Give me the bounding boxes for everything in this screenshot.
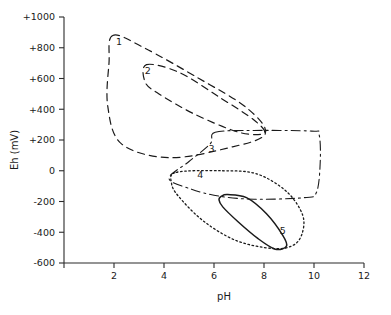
x-tick-label: 2 bbox=[111, 270, 117, 281]
curve-label-4: 4 bbox=[197, 169, 203, 180]
y-tick-label: -200 bbox=[33, 196, 55, 207]
y-tick-label: +1000 bbox=[23, 11, 55, 22]
y-tick-label: 0 bbox=[49, 165, 55, 176]
y-tick-label: -400 bbox=[33, 227, 55, 238]
eh-ph-stability-chart: -600-400-2000+200+400+600+800+1000 24681… bbox=[0, 0, 391, 315]
curve-label-3: 3 bbox=[208, 143, 214, 154]
chart-canvas: -600-400-2000+200+400+600+800+1000 24681… bbox=[0, 0, 391, 315]
y-tick-label: -600 bbox=[33, 257, 55, 268]
x-tick-label: 4 bbox=[161, 270, 167, 281]
curve-label-5: 5 bbox=[280, 225, 286, 236]
y-tick-label: +600 bbox=[29, 73, 55, 84]
x-tick-label: 10 bbox=[308, 270, 320, 281]
x-axis-title: pH bbox=[217, 291, 231, 302]
y-axis-title: Eh (mV) bbox=[9, 130, 20, 170]
curve-label-1: 1 bbox=[116, 36, 122, 47]
x-tick-label: 12 bbox=[358, 270, 370, 281]
y-tick-label: +200 bbox=[29, 134, 55, 145]
curve-label-2: 2 bbox=[145, 65, 151, 76]
y-tick-label: +400 bbox=[29, 104, 55, 115]
y-tick-label: +800 bbox=[29, 42, 55, 53]
x-tick-label: 6 bbox=[211, 270, 217, 281]
x-tick-label: 8 bbox=[261, 270, 267, 281]
chart-background bbox=[0, 0, 391, 315]
